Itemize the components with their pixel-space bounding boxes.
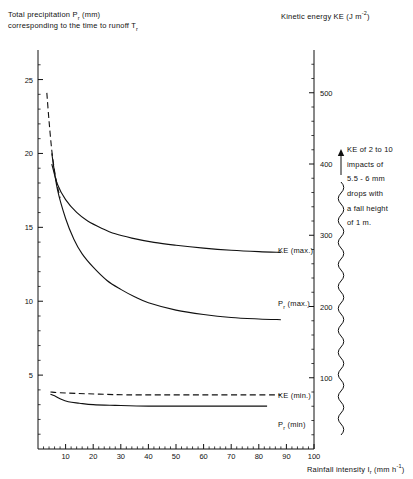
svg-text:20: 20 [89,452,97,461]
series-ke-min- [50,392,280,395]
series-pr-max- [52,153,281,319]
svg-text:400: 400 [320,160,333,169]
svg-text:100: 100 [308,452,321,461]
svg-text:15: 15 [25,223,33,232]
svg-text:10: 10 [25,297,33,306]
svg-text:70: 70 [227,452,235,461]
svg-text:60: 60 [199,452,207,461]
svg-text:300: 300 [320,231,333,240]
svg-text:20: 20 [25,149,33,158]
svg-text:10: 10 [61,452,69,461]
svg-text:200: 200 [320,303,333,312]
svg-text:50: 50 [172,452,180,461]
figure-root: Total precipitation Pr (mm) correspondin… [0,0,413,479]
series-pr-max-dashed-extension [47,93,60,198]
svg-text:25: 25 [25,76,33,85]
series-pr-min- [50,394,267,406]
svg-text:500: 500 [320,89,333,98]
svg-text:30: 30 [117,452,125,461]
svg-text:40: 40 [144,452,152,461]
svg-text:80: 80 [255,452,263,461]
svg-text:5: 5 [29,371,33,380]
svg-text:90: 90 [282,452,290,461]
plot-canvas: 5101520251002003004005001020304050607080… [0,0,413,479]
series-ke-max- [52,164,281,252]
svg-text:100: 100 [320,374,333,383]
